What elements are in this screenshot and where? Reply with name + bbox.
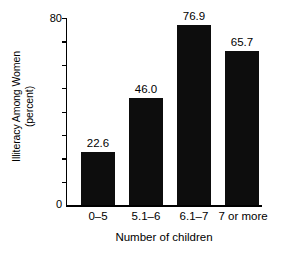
bar-value-label: 65.7 bbox=[231, 36, 253, 48]
y-axis-title-line-2: (percent) bbox=[22, 51, 35, 162]
x-axis-tick-label-3: 7 or more bbox=[218, 210, 267, 223]
x-axis-tick-label-2: 6.1–7 bbox=[180, 210, 209, 223]
y-axis-title: Illiteracy Among Women (percent) bbox=[0, 0, 44, 212]
bar-value-label: 46.0 bbox=[135, 83, 157, 95]
bar-value-label: 76.9 bbox=[183, 10, 205, 22]
bar-chart-figure: Illiteracy Among Women (percent) 80 0 22… bbox=[0, 0, 293, 255]
x-axis-title: Number of children bbox=[66, 231, 262, 244]
y-axis-tick bbox=[62, 88, 67, 89]
bar-value-label: 22.6 bbox=[87, 137, 109, 149]
y-axis-tick-label-min: 0 bbox=[56, 199, 62, 210]
y-axis-tick bbox=[62, 182, 67, 183]
y-axis-tick bbox=[62, 158, 67, 159]
plot-area: 80 0 22.6 46.0 76.9 65.7 0–5 5.1–6 6.1–7… bbox=[66, 18, 262, 206]
bar-5-1-6: 46.0 bbox=[129, 98, 163, 206]
x-axis-tick-label-1: 5.1–6 bbox=[132, 210, 161, 223]
y-axis-tick bbox=[62, 135, 67, 136]
y-axis-tick bbox=[62, 18, 67, 19]
bar-0-5: 22.6 bbox=[81, 152, 115, 205]
y-axis-tick-label-max: 80 bbox=[50, 13, 62, 24]
bar-7-or-more: 65.7 bbox=[225, 51, 259, 205]
y-axis-tick bbox=[62, 65, 67, 66]
y-axis-title-line-1: Illiteracy Among Women bbox=[10, 51, 23, 162]
x-axis-line bbox=[66, 205, 262, 207]
y-axis-tick bbox=[62, 41, 67, 42]
bar-6-1-7: 76.9 bbox=[177, 25, 211, 205]
x-axis-tick-label-0: 0–5 bbox=[88, 210, 107, 223]
y-axis-tick bbox=[62, 112, 67, 113]
